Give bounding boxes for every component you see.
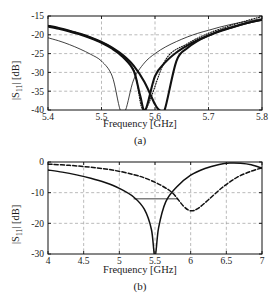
- caption-b: (b): [0, 280, 280, 292]
- x-axis-title-a: Frequency [GHz]: [0, 118, 280, 129]
- y-axis-title-a-tail: | [dB]: [10, 61, 21, 85]
- y-tick-label: -40: [31, 105, 44, 115]
- figure-panel-b: 44.555.566.57-30-20-100 Frequency [GHz] …: [0, 148, 280, 298]
- y-tick-label: -20: [31, 30, 44, 40]
- y-tick-label: -35: [31, 87, 44, 97]
- y-tick-label: 0: [39, 157, 44, 167]
- y-tick-label: -30: [31, 249, 44, 259]
- y-axis-title-b-tail: | [dB]: [10, 205, 21, 229]
- y-axis-title-b-main: |S: [10, 236, 21, 244]
- x-axis-title-b: Frequency [GHz]: [0, 264, 280, 275]
- figure-panel-a: 5.45.55.65.75.8-40-35-30-25-20-15 Freque…: [0, 0, 280, 150]
- y-axis-title-b: |S11| [dB]: [10, 205, 24, 244]
- chart-a-svg: 5.45.55.65.75.8-40-35-30-25-20-15: [0, 0, 280, 122]
- y-tick-label: -15: [31, 11, 44, 21]
- y-axis-title-b-sub: 11: [15, 229, 24, 236]
- plot-area-b: 44.555.566.57-30-20-100: [0, 148, 280, 270]
- plot-background: [48, 16, 262, 110]
- plot-area-a: 5.45.55.65.75.8-40-35-30-25-20-15: [0, 0, 280, 122]
- y-tick-label: -30: [31, 68, 44, 78]
- y-axis-title-a-main: |S: [10, 92, 21, 100]
- y-tick-label: -10: [31, 188, 44, 198]
- y-tick-label: -20: [31, 219, 44, 229]
- y-tick-label: -25: [31, 49, 44, 59]
- chart-b-svg: 44.555.566.57-30-20-100: [0, 148, 280, 270]
- y-axis-title-a-sub: 11: [15, 85, 24, 92]
- caption-a: (a): [0, 134, 280, 146]
- y-axis-title-a: |S11| [dB]: [10, 61, 24, 100]
